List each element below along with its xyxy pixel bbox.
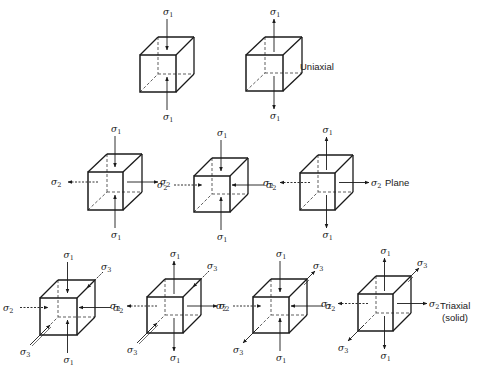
- cube-front-face: [88, 172, 123, 210]
- sigma1-bottom-label: σ1: [170, 353, 180, 365]
- stress-cube-uniaxial-1: σ1σ1: [140, 7, 194, 124]
- row-category-label: Plane: [385, 177, 409, 188]
- stress-cube-uniaxial-2: σ1σ1: [246, 7, 302, 123]
- sigma1-bottom-label: σ1: [111, 230, 121, 242]
- sigma1-top-label: σ1: [381, 246, 391, 258]
- sigma1-top-label: σ1: [323, 125, 333, 137]
- stress-cube-triaxial-2: σ1σ1σ2σ2σ3σ3: [110, 249, 229, 365]
- sigma2-left-label: σ2: [3, 303, 13, 315]
- sigma1-top-label: σ1: [163, 7, 173, 19]
- sigma2-left-label: σ2: [51, 177, 61, 189]
- sigma2-right-label: σ2: [371, 178, 381, 190]
- stress-cube-plane-2: σ1σ1σ2σ2: [157, 128, 276, 244]
- sigma3-lower-label: σ3: [338, 343, 348, 355]
- sigma2-right-label: σ2: [429, 299, 439, 311]
- sigma1-bottom-label: σ1: [163, 112, 173, 124]
- sigma3-lower-label: σ3: [20, 347, 30, 359]
- row-category-sublabel: (solid): [442, 312, 468, 323]
- sigma1-bottom-label: σ1: [323, 230, 333, 242]
- sigma3-lower-label: σ3: [233, 345, 243, 357]
- sigma1-top-label: σ1: [217, 128, 227, 140]
- sigma1-top-label: σ1: [64, 250, 74, 262]
- sigma1-bottom-label: σ1: [270, 111, 280, 123]
- sigma1-bottom-label: σ1: [64, 355, 74, 367]
- diagram-canvas: σ1σ1σ1σ1Uniaxialσ1σ1σ2σ2σ1σ1σ2σ2σ1σ1σ2σ2…: [0, 0, 489, 369]
- row-category-label: Triaxial: [440, 300, 470, 311]
- sigma1-top-label: σ1: [170, 249, 180, 261]
- stress-cube-triaxial-4: σ1σ1σ2σ2σ3σ3: [321, 246, 439, 363]
- sigma3-lower-label: σ3: [127, 345, 137, 357]
- stress-cube-plane-1: σ1σ1σ2σ2: [51, 124, 170, 242]
- sigma1-top-label: σ1: [270, 7, 280, 19]
- stress-cube-plane-3: σ1σ1σ2σ2: [263, 125, 381, 242]
- sigma1-bottom-label: σ1: [381, 351, 391, 363]
- sigma1-bottom-label: σ1: [217, 232, 227, 244]
- sigma1-bottom-label: σ1: [276, 353, 286, 365]
- sigma1-top-label: σ1: [276, 249, 286, 261]
- sigma1-top-label: σ1: [111, 124, 121, 136]
- row-category-label: Uniaxial: [300, 61, 334, 72]
- stress-cube-triaxial-1: σ1σ1σ2σ2σ3σ3: [3, 250, 123, 367]
- stress-cube-triaxial-3: σ1σ1σ2σ2σ3σ3: [216, 249, 335, 365]
